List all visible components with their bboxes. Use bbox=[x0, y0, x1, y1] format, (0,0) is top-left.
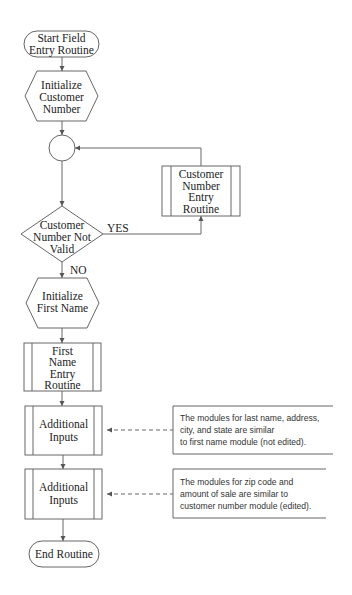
no-label: NO bbox=[70, 264, 87, 276]
additional-1-line-1: Additional bbox=[39, 418, 88, 430]
additional-inputs-box-1: Additional Inputs bbox=[25, 406, 102, 455]
connector-circle bbox=[49, 135, 75, 161]
additional-inputs-box-2: Additional Inputs bbox=[25, 469, 102, 519]
customer-entry-line-2: Number bbox=[182, 180, 220, 192]
decision-line-1: Customer bbox=[40, 219, 85, 231]
decision-line-3: Valid bbox=[50, 243, 75, 255]
first-entry-line-4: Routine bbox=[44, 379, 80, 391]
annotation-1-line-1: The modules for last name, address, bbox=[180, 413, 319, 423]
decision-line-2: Number Not bbox=[33, 231, 92, 243]
init-customer-line-3: Number bbox=[43, 103, 81, 115]
annotation-2-line-1: The modules for zip code and bbox=[180, 477, 293, 487]
init-first-line-1: Initialize bbox=[42, 290, 83, 302]
customer-entry-line-1: Customer bbox=[179, 168, 224, 180]
customer-number-not-valid-decision: Customer Number Not Valid bbox=[21, 206, 103, 262]
start-label-line-2: Entry Routine bbox=[29, 44, 94, 57]
additional-2-line-2: Inputs bbox=[49, 494, 78, 507]
init-first-line-2: First Name bbox=[37, 302, 88, 314]
customer-entry-line-4: Routine bbox=[183, 203, 219, 215]
annotation-2-line-2: amount of sale are similar to bbox=[180, 489, 288, 499]
customer-number-entry-routine-box: Customer Number Entry Routine bbox=[162, 166, 240, 216]
annotation-2-line-3: customer number module (edited). bbox=[180, 501, 311, 511]
start-label-line-1: Start Field bbox=[37, 32, 85, 44]
additional-1-line-2: Inputs bbox=[49, 431, 78, 444]
annotation-2: The modules for zip code and amount of s… bbox=[107, 469, 326, 518]
start-terminal: Start Field Entry Routine bbox=[24, 31, 99, 57]
first-entry-line-1: First bbox=[52, 345, 74, 357]
additional-2-line-1: Additional bbox=[39, 481, 88, 493]
yes-label: YES bbox=[107, 222, 129, 234]
init-customer-line-1: Initialize bbox=[41, 79, 82, 91]
annotation-1-line-3: to first name module (not edited). bbox=[180, 437, 306, 447]
annotation-1-line-2: city, and state are similar bbox=[180, 425, 275, 435]
init-first-name-hexagon: Initialize First Name bbox=[26, 278, 99, 328]
annotation-1: The modules for last name, address, city… bbox=[107, 406, 333, 454]
flowchart: Start Field Entry Routine Initialize Cus… bbox=[0, 0, 352, 595]
end-terminal: End Routine bbox=[29, 541, 99, 567]
init-customer-number-hexagon: Initialize Customer Number bbox=[25, 71, 98, 121]
first-name-entry-routine-box: First Name Entry Routine bbox=[24, 343, 101, 391]
first-entry-line-2: Name bbox=[49, 356, 76, 368]
end-label: End Routine bbox=[35, 548, 93, 560]
init-customer-line-2: Customer bbox=[39, 91, 84, 103]
